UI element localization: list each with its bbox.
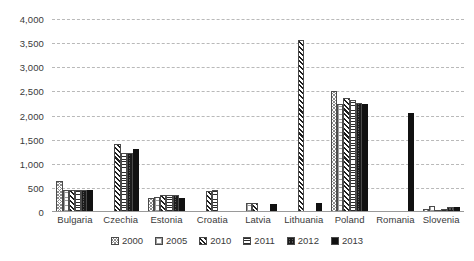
- chart-legend: 200020052010201120122013: [0, 236, 474, 246]
- legend-item-2005[interactable]: 2005: [155, 236, 187, 246]
- bar-slot: [362, 19, 368, 212]
- legend-swatch-icon: [155, 237, 163, 245]
- legend-item-2013[interactable]: 2013: [331, 236, 363, 246]
- bar-group: [327, 19, 373, 212]
- x-tick-label: Croatia: [189, 214, 235, 231]
- y-tick-label: 4,000: [20, 14, 44, 25]
- y-tick-label: 1,500: [20, 134, 44, 145]
- bar-slot: [87, 19, 93, 212]
- bar-slot: [225, 19, 231, 212]
- bar-estonia-2013: [179, 198, 185, 212]
- y-tick-label: 2,500: [20, 86, 44, 97]
- plot-area: [52, 19, 464, 212]
- x-tick-label: Estonia: [144, 214, 190, 231]
- legend-label: 2010: [210, 236, 231, 246]
- x-tick-label: Romania: [372, 214, 418, 231]
- x-tick-label: Bulgaria: [52, 214, 98, 231]
- bar-romania-2013: [408, 113, 414, 212]
- y-tick-label: 3,000: [20, 62, 44, 73]
- bar-slot: [408, 19, 414, 212]
- legend-label: 2012: [298, 236, 319, 246]
- x-tick-label: Slovenia: [418, 214, 464, 231]
- x-tick-label: Poland: [327, 214, 373, 231]
- bar-slot: [133, 19, 139, 212]
- bar-group: [418, 19, 464, 212]
- bar-group: [98, 19, 144, 212]
- y-tick-label: 1,000: [20, 158, 44, 169]
- bar-slot: [316, 19, 322, 212]
- x-tick-label: Lithuania: [281, 214, 327, 231]
- legend-item-2010[interactable]: 2010: [199, 236, 231, 246]
- legend-label: 2000: [122, 236, 143, 246]
- legend-swatch-icon: [243, 237, 251, 245]
- legend-swatch-icon: [331, 237, 339, 245]
- legend-label: 2013: [342, 236, 363, 246]
- bar-group: [52, 19, 98, 212]
- x-axis-labels: BulgariaCzechiaEstoniaCroatiaLatviaLithu…: [52, 214, 464, 231]
- y-tick-label: 500: [28, 182, 44, 193]
- bar-bulgaria-2013: [87, 190, 93, 212]
- bar-slot: [270, 19, 276, 212]
- bar-czechia-2013: [133, 149, 139, 212]
- bar-group: [281, 19, 327, 212]
- bar-groups: [52, 19, 464, 212]
- legend-item-2000[interactable]: 2000: [111, 236, 143, 246]
- legend-swatch-icon: [111, 237, 119, 245]
- legend-swatch-icon: [199, 237, 207, 245]
- bar-chart: 05001,0001,5002,0002,5003,0003,5004,000 …: [0, 0, 474, 261]
- bar-group: [189, 19, 235, 212]
- bar-group: [372, 19, 418, 212]
- bar-slot: [179, 19, 185, 212]
- x-tick-label: Latvia: [235, 214, 281, 231]
- legend-item-2011[interactable]: 2011: [243, 236, 274, 246]
- bar-group: [144, 19, 190, 212]
- x-axis-line: [52, 211, 464, 212]
- bar-slot: [454, 19, 460, 212]
- bar-poland-2013: [362, 104, 368, 212]
- y-tick-label: 3,500: [20, 38, 44, 49]
- legend-item-2012[interactable]: 2012: [287, 236, 319, 246]
- bar-group: [235, 19, 281, 212]
- legend-label: 2005: [166, 236, 187, 246]
- y-tick-label: 0: [39, 207, 44, 218]
- legend-swatch-icon: [287, 237, 295, 245]
- y-axis-labels: 05001,0001,5002,0002,5003,0003,5004,000: [0, 19, 48, 212]
- y-tick-label: 2,000: [20, 110, 44, 121]
- legend-label: 2011: [254, 236, 274, 246]
- x-tick-label: Czechia: [98, 214, 144, 231]
